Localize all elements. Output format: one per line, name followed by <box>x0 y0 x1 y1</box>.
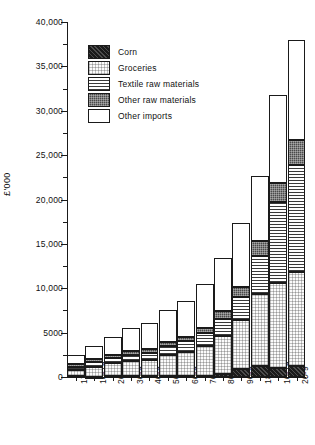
legend-swatch <box>88 93 110 107</box>
x-tick <box>297 377 298 381</box>
bar-segment <box>104 337 122 355</box>
legend-label: Textile raw materials <box>118 79 199 89</box>
x-tick <box>241 377 242 381</box>
bar-segment <box>85 362 103 367</box>
bar-segment <box>177 376 195 378</box>
legend-label: Groceries <box>118 63 157 73</box>
bar-segment <box>288 165 306 272</box>
x-tick <box>223 377 224 381</box>
bar-segment <box>104 363 122 376</box>
y-tick-label: 10,000 <box>36 283 63 293</box>
bar-segment <box>141 349 159 353</box>
bar-segment <box>85 359 103 362</box>
y-tick-label: 35,000 <box>36 61 63 71</box>
bar-segment <box>67 355 85 365</box>
bar-segment <box>196 328 214 333</box>
legend-label: Other imports <box>118 111 172 121</box>
bar-segment <box>67 370 85 376</box>
bar <box>196 22 214 377</box>
bar-segment <box>232 369 250 377</box>
bar-segment <box>159 346 177 354</box>
bar-segment <box>104 355 122 358</box>
bar <box>269 22 287 377</box>
legend-swatch <box>88 109 110 123</box>
bar-segment <box>269 368 287 377</box>
bar-segment <box>141 360 159 377</box>
bar <box>232 22 250 377</box>
bar <box>288 22 306 377</box>
bar-segment <box>122 328 140 351</box>
y-tick-label: 25,000 <box>36 150 63 160</box>
y-tick-label: 30,000 <box>36 106 63 116</box>
x-tick <box>260 377 261 381</box>
legend-label: Other raw materials <box>118 95 196 105</box>
bar-segment <box>196 346 214 375</box>
bar <box>85 22 103 377</box>
bar-segment <box>159 310 177 342</box>
bar-segment <box>288 272 306 366</box>
bar-segment <box>122 355 140 361</box>
bar-segment <box>288 366 306 377</box>
bar-segment <box>122 361 140 377</box>
bar-segment <box>269 183 287 202</box>
bar-segment <box>159 376 177 378</box>
bar-segment <box>214 311 232 319</box>
bar-segment <box>251 176 269 242</box>
y-tick-label: 5000 <box>43 328 63 338</box>
bar <box>67 22 85 377</box>
bar-segment <box>177 352 195 376</box>
bar-segment <box>141 376 159 378</box>
bar-segment <box>232 320 250 369</box>
stacked-bar-chart: £'000 0500010,00015,00020,00025,00030,00… <box>0 0 315 445</box>
bar <box>122 22 140 377</box>
bar-segment <box>67 376 85 378</box>
bar-segment <box>232 297 250 320</box>
bar <box>251 22 269 377</box>
y-axis-label: £'000 <box>2 172 12 196</box>
bar-segment <box>122 351 140 354</box>
legend-swatch <box>88 45 110 59</box>
bar-segment <box>214 258 232 311</box>
bar-segment <box>232 287 250 297</box>
bar-segment <box>251 256 269 294</box>
bar-segment <box>159 355 177 376</box>
bar-segment <box>122 376 140 378</box>
bar <box>214 22 232 377</box>
bar-segment <box>269 95 287 183</box>
bar-segment <box>196 333 214 346</box>
bar-segment <box>104 358 122 363</box>
bar-segment <box>85 367 103 377</box>
bar <box>177 22 195 377</box>
bar-segment <box>251 366 269 377</box>
bar-segment <box>141 323 159 349</box>
y-tick-label: 15,000 <box>36 239 63 249</box>
bar-segment <box>177 301 195 337</box>
bar-segment <box>232 223 250 287</box>
bar-segment <box>85 377 103 379</box>
bar-segment <box>159 342 177 346</box>
bar-segment <box>269 202 287 284</box>
bar-segment <box>85 346 103 359</box>
y-tick-label: 40,000 <box>36 17 63 27</box>
bar <box>159 22 177 377</box>
bar-segment <box>104 376 122 378</box>
bar-segment <box>214 336 232 374</box>
bar-segment <box>288 40 306 141</box>
legend-swatch <box>88 61 110 75</box>
y-tick-label: 20,000 <box>36 195 63 205</box>
x-tick <box>278 377 279 381</box>
bar-segment <box>177 337 195 341</box>
bar-segment <box>214 374 232 377</box>
bar-segment <box>141 353 159 360</box>
bar-segment <box>288 140 306 165</box>
bar-segment <box>67 367 85 371</box>
bar <box>141 22 159 377</box>
y-tick-label: 0 <box>58 372 63 382</box>
bar-segment <box>196 284 214 328</box>
legend-label: Corn <box>118 47 137 57</box>
bar-segment <box>196 376 214 378</box>
bar <box>104 22 122 377</box>
bar-segment <box>251 294 269 366</box>
bar-segment <box>214 319 232 336</box>
bar-segment <box>177 341 195 352</box>
